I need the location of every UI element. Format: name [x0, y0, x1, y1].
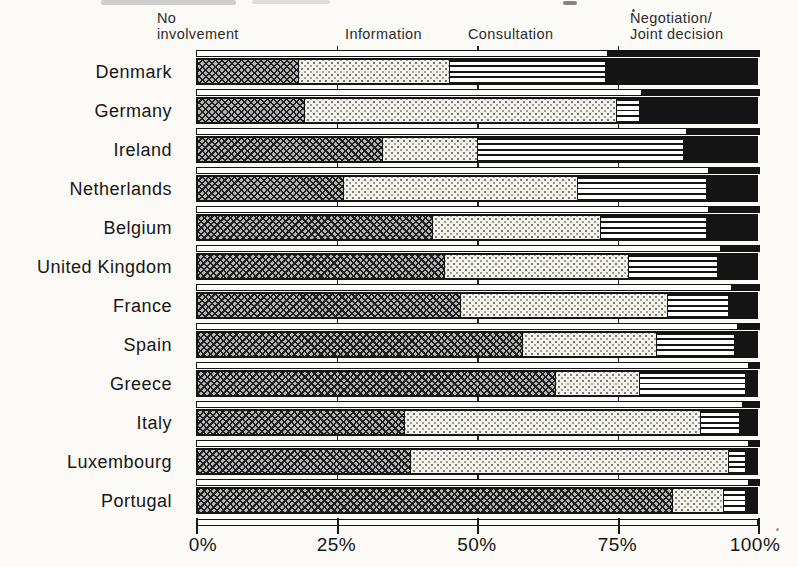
segment-light-stipple	[298, 60, 449, 83]
axis-tick	[477, 518, 479, 534]
segment-horizontal-lines	[477, 138, 683, 161]
country-label-portugal: Portugal	[101, 491, 172, 512]
bar-top-face	[196, 245, 760, 252]
axis-label-50: 50%	[457, 534, 497, 556]
bar-top-face	[196, 401, 760, 408]
bar-top-face	[196, 284, 760, 291]
segment-dark-crosshatch	[198, 99, 304, 122]
segment-light-stipple	[343, 177, 577, 200]
bar-top-face-black	[742, 402, 759, 407]
segment-light-stipple	[382, 138, 477, 161]
legend-label-solid-black: Negotiation/ Joint decision	[630, 10, 723, 42]
segment-light-stipple	[555, 372, 639, 395]
country-label-spain: Spain	[123, 335, 172, 356]
segment-light-stipple	[444, 255, 628, 278]
bar-top-face-black	[748, 441, 759, 446]
segment-horizontal-lines	[700, 411, 739, 434]
bar-top-face	[196, 206, 760, 213]
segment-solid-black	[745, 450, 756, 473]
segment-dark-crosshatch	[198, 138, 382, 161]
country-label-belgium: Belgium	[103, 218, 172, 239]
bar-top-face-black	[607, 51, 759, 56]
axis-label-25: 25%	[317, 534, 357, 556]
segment-dark-crosshatch	[198, 411, 404, 434]
segment-light-stipple	[432, 216, 599, 239]
cropped-text-remnant	[563, 1, 577, 5]
segment-light-stipple	[410, 450, 728, 473]
bar-top-face	[196, 479, 760, 486]
country-label-luxembourg: Luxembourg	[67, 452, 172, 473]
segment-solid-black	[706, 216, 756, 239]
legend-label-dark-crosshatch: No involvement	[157, 10, 239, 42]
segment-solid-black	[728, 294, 756, 317]
segment-light-stipple	[304, 99, 616, 122]
bar-top-face-black	[708, 207, 759, 212]
segment-light-stipple	[522, 333, 656, 356]
bar-germany	[196, 97, 758, 124]
segment-horizontal-lines	[449, 60, 605, 83]
legend-label-light-stipple: Information	[345, 26, 422, 42]
segment-solid-black	[706, 177, 756, 200]
segment-dark-crosshatch	[198, 450, 410, 473]
bar-top-face	[196, 362, 760, 369]
bar-top-face-black	[641, 90, 759, 95]
segment-horizontal-lines	[723, 489, 745, 512]
bar-top-face-black	[737, 324, 759, 329]
bar-top-face-black	[720, 246, 759, 251]
bar-top-face	[196, 440, 760, 447]
country-label-united-kingdom: United Kingdom	[37, 257, 172, 278]
segment-horizontal-lines	[656, 333, 734, 356]
segment-solid-black	[739, 411, 756, 434]
segment-dark-crosshatch	[198, 216, 432, 239]
segment-horizontal-lines	[728, 450, 745, 473]
segment-horizontal-lines	[616, 99, 638, 122]
country-label-italy: Italy	[136, 413, 172, 434]
country-label-netherlands: Netherlands	[69, 179, 172, 200]
bar-netherlands	[196, 175, 758, 202]
segment-dark-crosshatch	[198, 372, 555, 395]
bar-top-face-black	[708, 168, 759, 173]
bar-spain	[196, 331, 758, 358]
bar-top-face-black	[731, 285, 759, 290]
bar-belgium	[196, 214, 758, 241]
country-label-ireland: Ireland	[113, 140, 172, 161]
bar-top-face	[196, 50, 760, 57]
segment-light-stipple	[672, 489, 722, 512]
bar-france	[196, 292, 758, 319]
bar-denmark	[196, 58, 758, 85]
axis-label-100: 100%	[730, 534, 781, 556]
bar-greece	[196, 370, 758, 397]
scan-speck	[776, 528, 779, 531]
axis-tick	[337, 518, 339, 534]
segment-horizontal-lines	[600, 216, 706, 239]
axis-label-0: 0%	[189, 534, 217, 556]
segment-horizontal-lines	[667, 294, 728, 317]
segment-dark-crosshatch	[198, 60, 298, 83]
segment-dark-crosshatch	[198, 177, 343, 200]
segment-solid-black	[745, 372, 756, 395]
stacked-bar-chart: No involvementInformationConsultationNeg…	[0, 0, 798, 567]
bar-united-kingdom	[196, 253, 758, 280]
bar-top-face	[196, 167, 760, 174]
segment-solid-black	[717, 255, 756, 278]
segment-dark-crosshatch	[198, 489, 672, 512]
segment-horizontal-lines	[628, 255, 717, 278]
segment-dark-crosshatch	[198, 255, 444, 278]
axis-tick	[196, 518, 198, 534]
country-label-denmark: Denmark	[95, 62, 172, 83]
segment-horizontal-lines	[577, 177, 705, 200]
country-label-france: France	[113, 296, 172, 317]
segment-solid-black	[734, 333, 756, 356]
segment-horizontal-lines	[639, 372, 745, 395]
bar-ireland	[196, 136, 758, 163]
segment-light-stipple	[404, 411, 700, 434]
segment-dark-crosshatch	[198, 294, 460, 317]
segment-solid-black	[605, 60, 756, 83]
bar-luxembourg	[196, 448, 758, 475]
bar-top-face-black	[686, 129, 759, 134]
bar-top-face-black	[748, 363, 759, 368]
bar-top-face-black	[748, 480, 759, 485]
segment-solid-black	[639, 99, 756, 122]
bar-italy	[196, 409, 758, 436]
segment-dark-crosshatch	[198, 333, 522, 356]
